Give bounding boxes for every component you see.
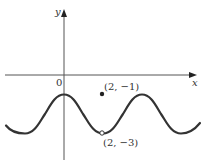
- point-label-filled: (2, −1): [104, 81, 139, 92]
- point-filled: [100, 92, 104, 96]
- function-graph: y x 0 (2, −1) (2, −3): [0, 0, 203, 163]
- y-axis-arrow-icon: [61, 9, 67, 17]
- point-open: [100, 131, 104, 135]
- x-axis-label: x: [192, 77, 198, 88]
- y-axis-label: y: [54, 6, 61, 17]
- cosine-curve: [6, 95, 200, 134]
- origin-label: 0: [56, 77, 62, 88]
- point-label-open: (2, −3): [103, 137, 138, 148]
